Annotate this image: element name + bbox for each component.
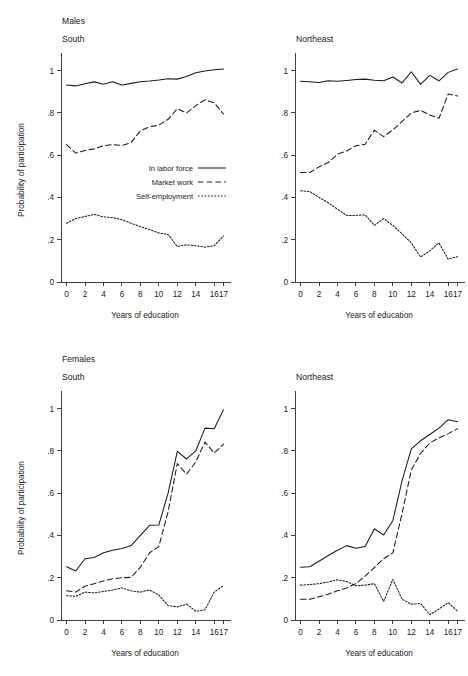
series-group-females-south (67, 410, 224, 611)
series-line-in-labor-force (301, 69, 458, 84)
y-tick-label-.4: .4 (47, 531, 54, 540)
y-tick-label-.6: .6 (281, 489, 288, 498)
x-tick-label-2: 2 (83, 628, 88, 637)
y-tick-label-.8: .8 (47, 109, 54, 118)
legend (198, 168, 226, 196)
x-tick-label-6: 6 (120, 628, 125, 637)
y-tick-label-.8: .8 (47, 447, 54, 456)
panel-title-females-northeast: Northeast (296, 372, 334, 382)
x-axis-title: Years of education (111, 311, 179, 320)
x-tick-label-17: 17 (219, 290, 229, 299)
x-axis-title: Years of education (345, 649, 413, 658)
legend-label-dashed: Market work (152, 178, 194, 187)
x-tick-label-12: 12 (173, 290, 183, 299)
x-tick-label-17: 17 (453, 290, 463, 299)
axes-group-females-south (57, 391, 231, 624)
x-axis-title: Years of education (111, 649, 179, 658)
y-tick-label-.4: .4 (47, 193, 54, 202)
x-tick-label-16: 16 (210, 290, 220, 299)
x-tick-label-16: 16 (210, 628, 220, 637)
y-tick-label-.6: .6 (281, 151, 288, 160)
group-label-males: Males (62, 16, 85, 26)
y-tick-label-.2: .2 (281, 574, 288, 583)
x-tick-label-17: 17 (219, 628, 229, 637)
x-tick-label-10: 10 (388, 290, 398, 299)
x-tick-label-12: 12 (407, 628, 417, 637)
axes-group-females-northeast (291, 391, 465, 624)
y-tick-label-0: 0 (283, 616, 288, 625)
y-tick-label-.2: .2 (47, 236, 54, 245)
y-tick-label-.6: .6 (47, 151, 54, 160)
x-tick-label-6: 6 (354, 628, 359, 637)
series-line-in-labor-force (301, 420, 458, 568)
series-line-self-employment (301, 191, 458, 259)
x-axis-title: Years of education (345, 311, 413, 320)
panel-title-males-northeast: Northeast (296, 34, 334, 44)
x-tick-label-14: 14 (191, 628, 201, 637)
figure-four-panel-chart: MalesSouth0.2.4.6.81024681012141617Years… (0, 0, 468, 676)
group-label-females: Females (62, 354, 95, 364)
x-tick-label-12: 12 (173, 628, 183, 637)
series-group-females-northeast (301, 420, 458, 615)
x-tick-label-6: 6 (354, 290, 359, 299)
series-line-market-work (67, 442, 224, 592)
y-tick-label-1: 1 (49, 405, 54, 414)
x-tick-label-4: 4 (335, 628, 340, 637)
x-tick-label-16: 16 (444, 290, 454, 299)
panel-males-northeast: Northeast0.2.4.6.81024681012141617Years … (234, 0, 468, 338)
y-tick-label-.8: .8 (281, 109, 288, 118)
axes-group-males-south (57, 53, 231, 286)
series-line-market-work (301, 94, 458, 173)
x-tick-label-17: 17 (453, 628, 463, 637)
y-axis-title: Probability of participation (17, 461, 26, 555)
y-tick-label-.6: .6 (47, 489, 54, 498)
x-tick-label-10: 10 (154, 290, 164, 299)
x-tick-label-8: 8 (372, 628, 377, 637)
panel-title-males-south: South (62, 34, 85, 44)
y-tick-label-0: 0 (49, 278, 54, 287)
series-line-self-employment (67, 214, 224, 247)
x-tick-label-14: 14 (425, 628, 435, 637)
y-tick-label-.4: .4 (281, 531, 288, 540)
x-tick-label-4: 4 (335, 290, 340, 299)
x-tick-label-4: 4 (101, 290, 106, 299)
x-tick-label-0: 0 (64, 628, 69, 637)
x-tick-label-14: 14 (425, 290, 435, 299)
series-group-males-northeast (301, 69, 458, 259)
x-tick-label-8: 8 (372, 290, 377, 299)
x-tick-label-16: 16 (444, 628, 454, 637)
y-tick-label-0: 0 (283, 278, 288, 287)
y-tick-label-0: 0 (49, 616, 54, 625)
axes-group-males-northeast (291, 53, 465, 286)
x-tick-label-8: 8 (138, 290, 143, 299)
x-tick-label-0: 0 (298, 628, 303, 637)
x-tick-label-2: 2 (317, 628, 322, 637)
panel-title-females-south: South (62, 372, 85, 382)
y-tick-label-1: 1 (49, 67, 54, 76)
x-tick-label-6: 6 (120, 290, 125, 299)
y-axis-title: Probability of participation (17, 123, 26, 217)
y-tick-label-.2: .2 (281, 236, 288, 245)
x-tick-label-10: 10 (154, 628, 164, 637)
series-line-in-labor-force (67, 69, 224, 86)
panel-males-south: MalesSouth0.2.4.6.81024681012141617Years… (0, 0, 234, 338)
series-line-self-employment (301, 579, 458, 614)
panel-females-south: FemalesSouth0.2.4.6.81024681012141617Yea… (0, 338, 234, 676)
legend-label-dotted: Self-employment (136, 192, 194, 201)
x-tick-label-12: 12 (407, 290, 417, 299)
x-tick-label-2: 2 (83, 290, 88, 299)
y-tick-label-.2: .2 (47, 574, 54, 583)
series-line-self-employment (67, 586, 224, 611)
panel-females-northeast: Northeast0.2.4.6.81024681012141617Years … (234, 338, 468, 676)
x-tick-label-14: 14 (191, 290, 201, 299)
x-tick-label-10: 10 (388, 628, 398, 637)
x-tick-label-0: 0 (298, 290, 303, 299)
legend-label-solid: In labor force (149, 164, 193, 173)
series-line-market-work (301, 429, 458, 600)
x-tick-label-4: 4 (101, 628, 106, 637)
x-tick-label-0: 0 (64, 290, 69, 299)
series-line-market-work (67, 100, 224, 153)
x-tick-label-2: 2 (317, 290, 322, 299)
y-tick-label-1: 1 (283, 67, 288, 76)
series-line-in-labor-force (67, 410, 224, 571)
